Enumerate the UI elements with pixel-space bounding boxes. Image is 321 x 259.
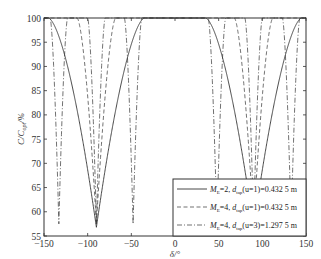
chart: −150−100−5005010015055606570758085909510… (0, 0, 321, 259)
legend-label-3: ME=4, dtap(u=3)=1.297 5 m (209, 221, 298, 231)
x-tick-label: −100 (78, 239, 98, 249)
y-tick-label: 100 (27, 14, 42, 24)
legend: ME=2, dtap(u=1)=0.432 5 mME=4, dtap(u=1)… (173, 179, 306, 236)
y-tick-label: 75 (32, 135, 42, 145)
x-tick-label: 100 (255, 239, 270, 249)
y-axis-title: C/Copt/% (16, 113, 27, 145)
y-tick-label: 95 (32, 38, 42, 48)
x-tick-label: 50 (214, 239, 224, 249)
y-tick-label: 70 (32, 159, 42, 169)
y-tick-label: 90 (32, 62, 42, 72)
y-tick-label: 60 (32, 207, 42, 217)
y-tick-label: 80 (32, 110, 42, 120)
y-tick-label: 55 (32, 232, 42, 242)
y-tick-label: 85 (32, 86, 42, 96)
legend-label-1: ME=2, dtap(u=1)=0.432 5 m (209, 185, 298, 195)
x-axis-title: δ/° (170, 249, 181, 259)
x-tick-label: −50 (124, 239, 139, 249)
legend-label-2: ME=4, dtap(u=1)=0.432 5 m (209, 203, 298, 213)
y-tick-label: 65 (32, 183, 42, 193)
x-tick-label: 0 (173, 239, 178, 249)
x-tick-label: 150 (299, 239, 314, 249)
